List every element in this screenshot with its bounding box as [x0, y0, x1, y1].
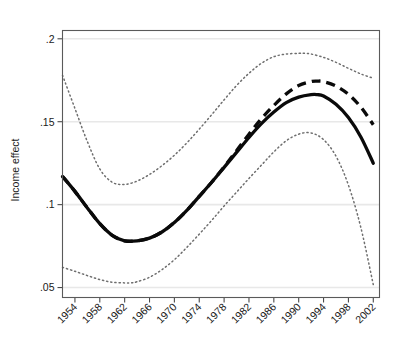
y-tick-label: .2	[46, 33, 55, 45]
y-tick-label: .05	[40, 281, 55, 293]
y-tick-label: .15	[40, 116, 55, 128]
y-tick-label: .1	[46, 198, 55, 210]
chart-figure: .05.1.15.2 19541958196219661970197419781…	[0, 0, 404, 343]
y-axis-title: Income effect	[9, 138, 21, 201]
income-effect-line-chart: .05.1.15.2 19541958196219661970197419781…	[0, 0, 404, 343]
